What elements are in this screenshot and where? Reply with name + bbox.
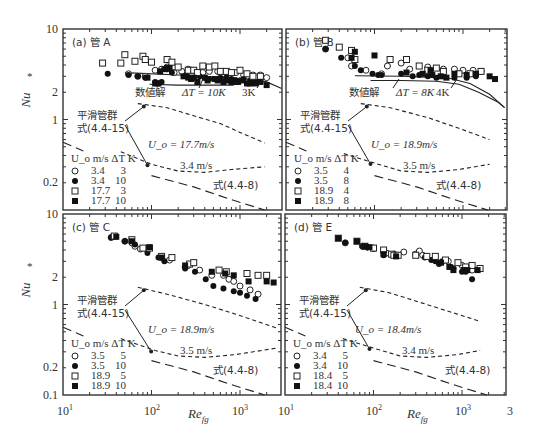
y-tick-10-top: 10 bbox=[46, 22, 58, 36]
panel-1: (a) 管 A数値解ΔT = 10K3K平滑管群式(4.4-15)U_o = 1… bbox=[63, 29, 282, 210]
filled-square-marker bbox=[393, 253, 399, 259]
filled-square-marker bbox=[473, 71, 479, 77]
open-circle-marker bbox=[294, 353, 300, 359]
legend-u: 18.9 bbox=[91, 379, 111, 391]
open-square-marker bbox=[142, 57, 148, 63]
eq8-label: 式(4.4-8) bbox=[445, 364, 490, 376]
y-tick-1-top: 1 bbox=[52, 113, 58, 127]
open-square-marker bbox=[72, 188, 78, 194]
u-high-label: U_o = 18.9m/s bbox=[371, 138, 437, 150]
x-tick-1000: 103 bbox=[232, 403, 248, 418]
filled-square-marker bbox=[182, 262, 188, 268]
open-square-marker bbox=[228, 70, 234, 76]
y-tick-2-top: 2 bbox=[52, 85, 58, 99]
filled-circle-marker bbox=[72, 363, 78, 369]
legend-header: U_o m/s ΔT K bbox=[71, 152, 136, 164]
filled-square-marker bbox=[420, 71, 426, 77]
arrow bbox=[347, 290, 366, 306]
open-square-marker bbox=[237, 67, 243, 73]
y-tick-10-bot: 10 bbox=[46, 207, 58, 221]
open-square-marker bbox=[455, 260, 461, 266]
x-tick-3-r: 3 bbox=[507, 404, 513, 418]
filled-square-marker bbox=[335, 235, 341, 241]
x-ticks-left: 101 102 103 Refg bbox=[57, 403, 248, 424]
smooth-eq-label: 式(4.4-15) bbox=[299, 307, 351, 319]
filled-circle-marker bbox=[122, 238, 128, 244]
open-square-marker bbox=[200, 63, 206, 69]
u-low-label: 3.4 m/s bbox=[402, 344, 434, 356]
u-high-label: U_o = 18.4m/s bbox=[355, 323, 421, 335]
filled-square-marker bbox=[443, 75, 449, 81]
x-tick-1000-r: 103 bbox=[455, 403, 471, 418]
filled-circle-marker bbox=[294, 363, 300, 369]
filled-square-marker bbox=[147, 244, 153, 250]
panel-title: (b) 管 B bbox=[295, 36, 334, 48]
filled-square-marker bbox=[239, 77, 245, 83]
filled-square-marker bbox=[113, 234, 119, 240]
curve bbox=[63, 142, 83, 151]
filled-square-marker bbox=[381, 251, 387, 257]
open-square-marker bbox=[478, 68, 484, 74]
open-circle-marker bbox=[363, 67, 369, 73]
u-low-label: 3.4 m/s bbox=[180, 159, 212, 171]
filled-square-marker bbox=[404, 70, 410, 76]
x-tick-10: 101 bbox=[57, 403, 73, 418]
x-tick-100-r: 102 bbox=[366, 403, 382, 418]
u-high-label: U_o = 17.7m/s bbox=[148, 138, 214, 150]
filled-circle-marker bbox=[231, 288, 237, 294]
panel-2: (b) 管 B数値解ΔT = 8K4K平滑管群式(4.4-15)U_o = 18… bbox=[286, 29, 507, 210]
open-square-marker bbox=[169, 59, 175, 65]
open-square-marker bbox=[387, 57, 393, 63]
open-square-marker bbox=[244, 271, 250, 277]
u-low-label: 3.5 m/s bbox=[180, 344, 212, 356]
numerical-label: 数値解 bbox=[135, 86, 166, 98]
u-low-label: 3.5 m/s bbox=[403, 159, 435, 171]
open-square-marker bbox=[132, 58, 138, 64]
filled-circle-marker bbox=[398, 71, 404, 77]
eq8-label: 式(4.4-8) bbox=[436, 179, 481, 191]
x-ticks-right: 101 102 103 3 Refg bbox=[278, 403, 513, 424]
open-square-marker bbox=[149, 59, 155, 65]
filled-square-marker bbox=[72, 198, 78, 204]
numerical-label: 数値解 bbox=[349, 86, 380, 98]
y-tick-0.2-bot: 0.2 bbox=[43, 360, 58, 374]
open-square-marker bbox=[424, 253, 430, 259]
open-square-marker bbox=[216, 267, 222, 273]
open-circle-marker bbox=[237, 283, 243, 289]
open-square-marker bbox=[100, 60, 106, 66]
legend-header: U_o m/s ΔT K bbox=[293, 337, 358, 349]
x-tick-10-r: 101 bbox=[278, 403, 294, 418]
dt-low-label: 3K bbox=[242, 86, 256, 98]
filled-circle-marker bbox=[342, 240, 348, 246]
filled-square-marker bbox=[159, 255, 165, 261]
filled-square-marker bbox=[167, 65, 173, 71]
filled-square-marker bbox=[246, 278, 252, 284]
filled-square-marker bbox=[271, 280, 277, 286]
panel-title: (a) 管 A bbox=[72, 36, 111, 48]
y-tick-2-bot: 2 bbox=[52, 270, 58, 284]
filled-circle-marker bbox=[379, 72, 385, 78]
curve bbox=[63, 327, 83, 336]
open-square-marker bbox=[122, 52, 128, 58]
smooth-eq-label: 式(4.4-15) bbox=[77, 307, 129, 319]
open-square-marker bbox=[294, 373, 300, 379]
open-square-marker bbox=[295, 188, 301, 194]
y-label-sup-2: * bbox=[27, 260, 33, 272]
filled-circle-marker bbox=[105, 71, 111, 77]
legend-u: 17.7 bbox=[91, 194, 111, 206]
smooth-tube-label: 平滑管群 bbox=[300, 109, 341, 121]
filled-square-marker bbox=[464, 72, 470, 78]
panel-4: (d) 管 E平滑管群式(4.4-15)U_o = 18.4m/s3.4 m/s… bbox=[285, 214, 506, 395]
filled-square-marker bbox=[349, 55, 355, 61]
curve bbox=[286, 142, 306, 151]
open-circle-marker bbox=[295, 168, 301, 174]
filled-square-marker bbox=[222, 271, 228, 277]
legend-u: 18.9 bbox=[314, 194, 334, 206]
smooth-tube-label: 平滑管群 bbox=[77, 294, 118, 306]
smooth-tube-label: 平滑管群 bbox=[299, 294, 340, 306]
open-square-marker bbox=[118, 60, 124, 66]
filled-circle-marker bbox=[126, 72, 132, 78]
filled-square-marker bbox=[451, 71, 457, 77]
panel-3: (c) 管 C平滑管群式(4.4-15)U_o = 18.9m/s3.5 m/s… bbox=[63, 214, 281, 395]
open-square-marker bbox=[432, 253, 438, 259]
